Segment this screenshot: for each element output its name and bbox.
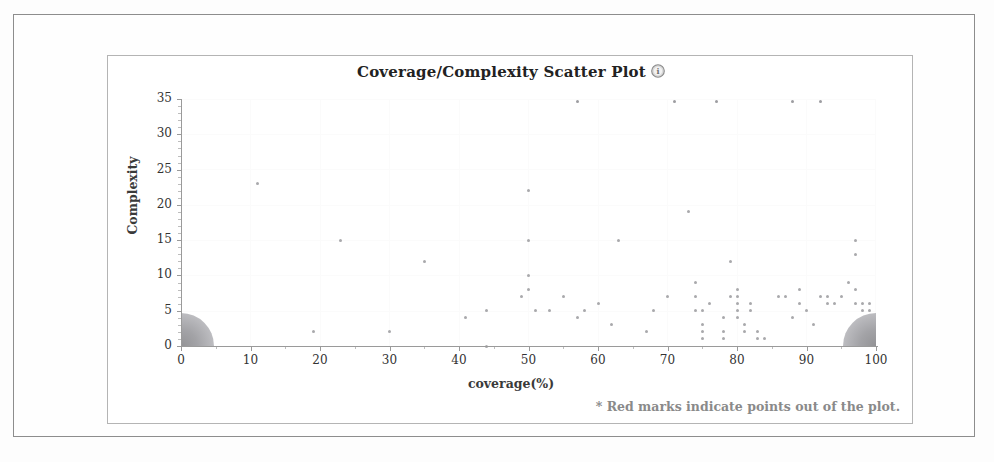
- y-tick-minor: [178, 113, 181, 114]
- y-tick-label-20: 20: [136, 197, 172, 211]
- y-tick-minor: [178, 304, 181, 305]
- y-tick-minor: [178, 261, 181, 262]
- scatter-point: [256, 182, 259, 185]
- scatter-point: [756, 330, 759, 333]
- scatter-point: [464, 316, 467, 319]
- scatter-point: [666, 295, 669, 298]
- scanned-page: Coverage/Complexity Scatter Ploti: [0, 0, 994, 462]
- svg-text:i: i: [656, 66, 659, 76]
- scatter-point: [694, 281, 697, 284]
- scatter-point: [736, 302, 739, 305]
- x-tick-40: [459, 347, 460, 351]
- scatter-point: [798, 288, 801, 291]
- scatter-point: [722, 337, 725, 340]
- x-tick-label-0: 0: [161, 353, 201, 367]
- x-tick-60: [598, 347, 599, 351]
- scatter-point: [729, 295, 732, 298]
- scatter-point: [388, 330, 391, 333]
- y-tick-label-10: 10: [136, 267, 172, 281]
- y-tick-minor: [178, 212, 181, 213]
- gridline-y-20: [181, 205, 876, 206]
- scatter-point: [784, 295, 787, 298]
- x-tick-minor: [633, 347, 634, 349]
- x-tick-label-10: 10: [231, 353, 271, 367]
- scatter-point: [826, 302, 829, 305]
- x-tick-minor: [355, 347, 356, 349]
- gridline-y-25: [181, 169, 876, 170]
- y-tick-minor: [178, 290, 181, 291]
- scatter-point: [854, 239, 857, 242]
- scatter-point: [597, 302, 600, 305]
- y-tick-label-25: 25: [136, 162, 172, 176]
- scatter-point: [798, 302, 801, 305]
- x-tick-label-100: 100: [856, 353, 896, 367]
- scatter-point: [736, 316, 739, 319]
- scatter-point: [736, 288, 739, 291]
- y-tick-minor: [178, 120, 181, 121]
- y-tick-minor: [178, 233, 181, 234]
- y-tick-minor: [178, 184, 181, 185]
- scatter-point: [722, 316, 725, 319]
- x-tick-0: [181, 347, 182, 351]
- scatter-point: [819, 100, 822, 103]
- y-tick-minor: [178, 106, 181, 107]
- scatter-point: [826, 295, 829, 298]
- scatter-point: [736, 309, 739, 312]
- x-tick-minor: [563, 347, 564, 349]
- y-tick-minor: [178, 141, 181, 142]
- scatter-point: [610, 323, 613, 326]
- scatter-point: [861, 309, 864, 312]
- gridline-x-30: [389, 99, 390, 346]
- scatter-point: [868, 302, 871, 305]
- y-tick-minor: [178, 247, 181, 248]
- x-tick-label-40: 40: [439, 353, 479, 367]
- scatter-point: [583, 309, 586, 312]
- y-tick-10: [177, 275, 182, 276]
- x-tick-80: [737, 347, 738, 351]
- scatter-point: [833, 302, 836, 305]
- y-tick-minor: [178, 268, 181, 269]
- y-tick-minor: [178, 156, 181, 157]
- y-tick-label-5: 5: [136, 303, 172, 317]
- gridline-y-35: [181, 99, 876, 100]
- scatter-point: [736, 295, 739, 298]
- scatter-point: [694, 309, 697, 312]
- scatter-point: [743, 330, 746, 333]
- scatter-point: [840, 295, 843, 298]
- x-tick-50: [529, 347, 530, 351]
- scatter-point: [423, 260, 426, 263]
- x-tick-label-80: 80: [717, 353, 757, 367]
- scatter-point: [527, 288, 530, 291]
- help-circle-icon[interactable]: i: [651, 64, 665, 78]
- scatter-point: [812, 323, 815, 326]
- y-tick-minor: [178, 325, 181, 326]
- y-tick-30: [177, 134, 182, 135]
- y-tick-20: [177, 205, 182, 206]
- y-tick-0: [177, 346, 182, 347]
- y-tick-25: [177, 170, 182, 171]
- y-tick-label-35: 35: [136, 91, 172, 105]
- x-tick-70: [668, 347, 669, 351]
- plot-area: [181, 99, 876, 346]
- scatter-point: [701, 337, 704, 340]
- y-tick-minor: [178, 163, 181, 164]
- gridline-y-30: [181, 134, 876, 135]
- scatter-point: [743, 323, 746, 326]
- y-axis-title: Complexity: [125, 136, 140, 256]
- y-tick-minor: [178, 198, 181, 199]
- scatter-point: [729, 260, 732, 263]
- x-tick-minor: [424, 347, 425, 349]
- scatter-point: [868, 309, 871, 312]
- y-tick-minor: [178, 254, 181, 255]
- gridline-x-100: [875, 99, 876, 346]
- chart-title-text: Coverage/Complexity Scatter Plot: [357, 63, 646, 81]
- x-tick-minor: [772, 347, 773, 349]
- gridline-x-10: [250, 99, 251, 346]
- gridline-x-20: [320, 99, 321, 346]
- y-tick-minor: [178, 219, 181, 220]
- gridline-y-5: [181, 311, 876, 312]
- scatter-point: [312, 330, 315, 333]
- x-tick-label-60: 60: [578, 353, 618, 367]
- scatter-point: [527, 274, 530, 277]
- x-tick-minor: [841, 347, 842, 349]
